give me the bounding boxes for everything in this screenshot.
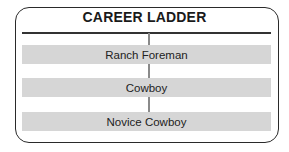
ladder-rung-ranch-foreman: Ranch Foreman: [22, 45, 271, 64]
diagram-title: CAREER LADDER: [0, 9, 289, 25]
rung-label: Ranch Foreman: [105, 49, 187, 61]
rung-label: Cowboy: [126, 82, 168, 94]
ladder-rung-cowboy: Cowboy: [22, 78, 271, 97]
title-divider: [22, 32, 271, 34]
rung-label: Novice Cowboy: [107, 116, 187, 128]
ladder-rung-novice-cowboy: Novice Cowboy: [22, 112, 271, 131]
